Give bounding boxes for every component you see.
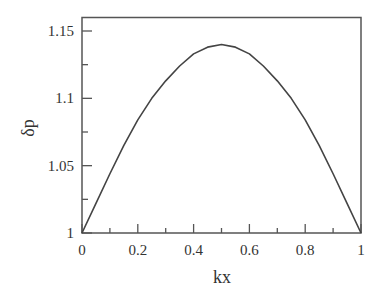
plot-frame xyxy=(82,18,361,234)
y-tick-label: 1.05 xyxy=(48,158,74,174)
axis-ticks xyxy=(82,31,361,233)
y-tick-label: 1.15 xyxy=(48,23,74,39)
x-tick-label: 0.8 xyxy=(296,242,315,258)
x-tick-labels: 00.20.40.60.81 xyxy=(78,242,365,258)
data-line xyxy=(82,44,361,233)
line-chart: 00.20.40.60.81 11.051.11.15 kx δp xyxy=(0,0,375,295)
y-tick-labels: 11.051.11.15 xyxy=(48,23,74,241)
y-tick-label: 1 xyxy=(67,225,75,241)
y-axis-label: δp xyxy=(18,119,38,136)
x-tick-label: 0.2 xyxy=(128,242,147,258)
x-tick-label: 0 xyxy=(78,242,86,258)
x-tick-label: 0.6 xyxy=(240,242,259,258)
x-tick-label: 1 xyxy=(357,242,365,258)
x-axis-label: kx xyxy=(213,267,231,287)
y-tick-label: 1.1 xyxy=(55,90,74,106)
x-tick-label: 0.4 xyxy=(184,242,203,258)
